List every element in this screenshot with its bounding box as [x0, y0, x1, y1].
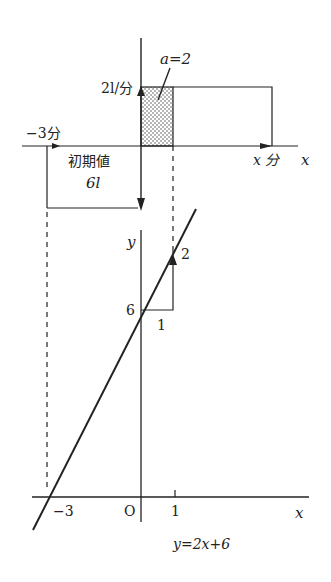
- y-axis-label: y: [126, 233, 136, 251]
- rate-label: 2l/分: [101, 80, 133, 96]
- shaded-area: [141, 87, 173, 146]
- minus3-arrow-icon: [52, 143, 60, 149]
- lower-x-axis-label: x: [295, 504, 304, 522]
- origin-label: O: [124, 503, 135, 519]
- initial-volume-label: 6l: [86, 174, 101, 192]
- initial-value-label: 初期値: [68, 153, 110, 169]
- upper-graph: [22, 38, 298, 250]
- rise-label: 2: [181, 246, 190, 262]
- lower-graph: [32, 209, 309, 530]
- minus3-minutes-label: −3分: [26, 125, 61, 141]
- down-arrow-icon: [137, 198, 145, 211]
- left-arrow-icon: [260, 143, 272, 149]
- equation-label: y=2x+6: [172, 536, 230, 552]
- upper-x-axis-label: x: [301, 151, 310, 169]
- run-label: 1: [157, 317, 166, 333]
- tick-1-label: 1: [171, 503, 180, 519]
- tick-minus3-label: −3: [53, 503, 74, 519]
- a-label: a=2: [160, 50, 191, 68]
- intercept-label: 6: [126, 302, 135, 318]
- diagram: 2l/分 a=2 −3分 初期値 6l x 分 x y 6 2 1 O −3 1…: [0, 0, 331, 582]
- function-line: [33, 209, 196, 530]
- rate-line: [173, 87, 272, 146]
- x-minutes-label: x 分: [253, 152, 281, 168]
